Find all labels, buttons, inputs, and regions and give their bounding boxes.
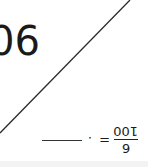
equals-sign: = <box>99 133 110 148</box>
fraction-denominator: 100 <box>114 123 138 137</box>
answer-blank[interactable] <box>42 140 82 141</box>
decimal-point: . <box>88 134 92 149</box>
worksheet-canvas: 90° 6 100 = . <box>0 0 148 167</box>
fraction-bar <box>114 139 138 140</box>
rotated-content: 90° 6 100 = . <box>0 0 148 167</box>
answer-field[interactable]: . <box>42 134 92 149</box>
bottom-strip <box>0 161 148 167</box>
fraction: 6 100 <box>114 123 138 155</box>
fraction-numerator: 6 <box>114 141 138 155</box>
angle-label: 90° <box>0 19 40 59</box>
